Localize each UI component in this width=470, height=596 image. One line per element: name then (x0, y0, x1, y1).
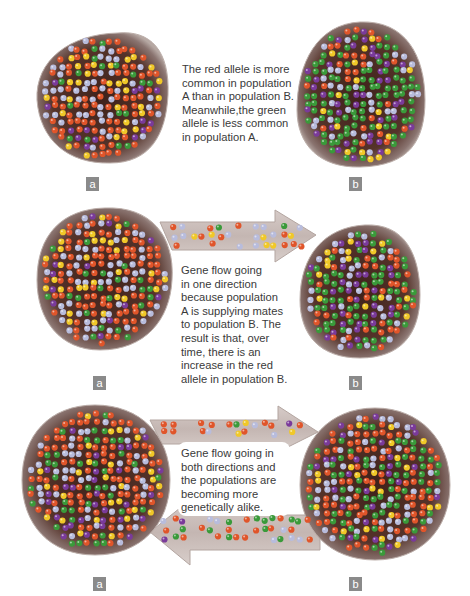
yellow-allele (109, 533, 115, 539)
green-allele (125, 334, 131, 340)
red-allele (131, 103, 137, 109)
lavender-allele (370, 462, 376, 468)
allele-highlight (103, 508, 105, 510)
allele-highlight (119, 484, 121, 486)
red-allele (74, 142, 80, 148)
allele-highlight (124, 71, 126, 73)
green-allele (342, 114, 348, 120)
red-allele (65, 238, 71, 244)
red-allele (124, 477, 130, 483)
lavender-allele (253, 234, 259, 240)
allele-highlight (316, 488, 318, 490)
red-allele (215, 533, 221, 539)
allele-highlight (93, 103, 95, 105)
red-allele (394, 528, 400, 534)
allele-highlight (150, 271, 152, 273)
label-population-a: a (93, 376, 106, 390)
purple-allele (356, 321, 362, 327)
yellow-allele (44, 484, 50, 490)
allele-highlight (315, 464, 317, 466)
red-allele (149, 460, 155, 466)
allele-highlight (365, 479, 367, 481)
allele-highlight (107, 57, 109, 59)
allele-highlight (373, 538, 375, 540)
purple-allele (410, 424, 416, 430)
green-allele (409, 108, 415, 114)
allele-highlight (385, 45, 387, 47)
lavender-allele (106, 279, 112, 285)
allele-highlight (279, 516, 281, 518)
allele-highlight (98, 95, 100, 97)
allele-highlight (341, 521, 343, 523)
allele-highlight (333, 242, 335, 244)
green-allele (369, 77, 375, 83)
allele-highlight (356, 232, 358, 234)
lavender-allele (364, 342, 370, 348)
allele-highlight (155, 246, 157, 248)
red-allele (384, 139, 390, 145)
lavender-allele (396, 445, 402, 451)
allele-highlight (414, 431, 416, 433)
allele-highlight (69, 120, 71, 122)
allele-highlight (408, 68, 410, 70)
allele-highlight (100, 231, 102, 233)
allele-highlight (101, 42, 103, 44)
allele-highlight (355, 465, 357, 467)
red-allele (130, 253, 136, 259)
allele-highlight (100, 216, 102, 218)
yellow-allele (243, 420, 249, 426)
allele-highlight (386, 78, 388, 80)
allele-highlight (395, 456, 397, 458)
allele-highlight (79, 508, 81, 510)
lavender-allele (124, 484, 130, 490)
allele-highlight (108, 272, 110, 274)
green-allele (379, 542, 385, 548)
lavender-allele (142, 483, 148, 489)
allele-highlight (126, 58, 128, 60)
allele-highlight (139, 261, 141, 263)
green-allele (295, 518, 301, 524)
allele-highlight (308, 538, 310, 540)
red-allele (364, 287, 370, 293)
red-allele (107, 468, 113, 474)
green-allele (321, 132, 327, 138)
yellow-allele (122, 237, 128, 243)
red-allele (106, 247, 112, 253)
allele-highlight (363, 322, 365, 324)
allele-highlight (331, 536, 333, 538)
allele-highlight (347, 336, 349, 338)
allele-highlight (322, 53, 324, 55)
red-allele (394, 327, 400, 333)
red-allele (140, 525, 146, 531)
allele-highlight (139, 65, 141, 67)
yellow-allele (103, 474, 109, 480)
allele-highlight (356, 440, 358, 442)
allele-highlight (82, 120, 84, 122)
green-allele (140, 506, 146, 512)
lavender-allele (92, 247, 98, 253)
lavender-allele (261, 224, 267, 230)
allele-highlight (349, 455, 351, 457)
red-allele (84, 293, 90, 299)
allele-highlight (86, 469, 88, 471)
allele-highlight (84, 104, 86, 106)
lavender-allele (82, 246, 88, 252)
allele-highlight (348, 297, 350, 299)
red-allele (379, 429, 385, 435)
allele-highlight (119, 452, 121, 454)
purple-allele (408, 124, 414, 130)
allele-highlight (411, 503, 413, 505)
allele-highlight (380, 255, 382, 257)
allele-highlight (102, 459, 104, 461)
allele-highlight (435, 471, 437, 473)
purple-allele (340, 432, 346, 438)
allele-highlight (330, 126, 332, 128)
green-allele (269, 515, 275, 521)
allele-highlight (330, 255, 332, 257)
allele-highlight (140, 111, 142, 113)
purple-allele (100, 517, 106, 523)
red-allele (388, 326, 394, 332)
lavender-allele (84, 319, 90, 325)
green-allele (344, 99, 350, 105)
allele-highlight (429, 496, 431, 498)
